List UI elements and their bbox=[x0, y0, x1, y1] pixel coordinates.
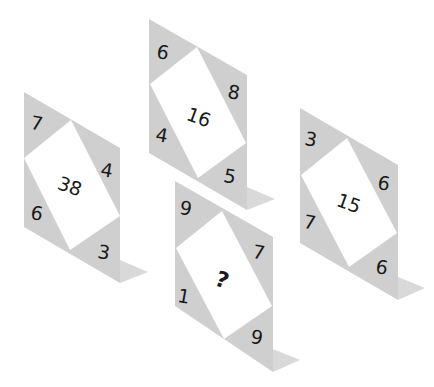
puzzle-canvas: 7 4 6 3 38 6 8 4 5 16 3 6 7 6 15 9 7 1 9… bbox=[0, 0, 434, 387]
panel-b-foot bbox=[247, 187, 275, 210]
panel-c: 3 6 7 6 15 bbox=[300, 108, 425, 300]
panel-a: 7 4 6 3 38 bbox=[24, 92, 148, 283]
panel-b: 6 8 4 5 16 bbox=[149, 19, 275, 210]
panel-d: 9 7 1 9 ? bbox=[175, 181, 300, 372]
panel-c-foot bbox=[398, 277, 425, 300]
panel-d-foot bbox=[273, 349, 300, 372]
panel-a-foot bbox=[120, 260, 148, 283]
